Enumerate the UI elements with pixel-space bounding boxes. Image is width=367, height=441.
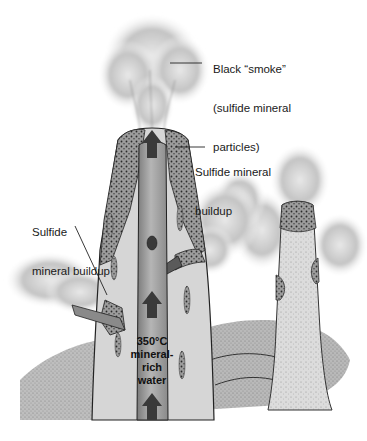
label-line: buildup (195, 205, 271, 218)
label-sulfide-buildup-left: Sulfide mineral buildup (32, 200, 110, 304)
label-line: Sulfide mineral (195, 166, 271, 179)
label-line: rich (122, 361, 182, 374)
label-hot-water: 350°C mineral- rich water (122, 335, 182, 387)
label-line: mineral- (122, 348, 182, 361)
black-smoke-plume (98, 13, 210, 135)
label-line: (sulfide mineral (213, 102, 291, 115)
label-sulfide-buildup-top: Sulfide mineral buildup (195, 140, 271, 244)
label-line: water (122, 374, 182, 387)
label-line: mineral buildup (32, 265, 110, 278)
conduit-hole (147, 236, 157, 250)
vent-diagram: Black “smoke” (sulfide mineral particles… (0, 0, 367, 441)
label-line: 350°C (122, 335, 182, 348)
label-line: Sulfide (32, 226, 110, 239)
label-line: Black “smoke” (213, 63, 291, 76)
